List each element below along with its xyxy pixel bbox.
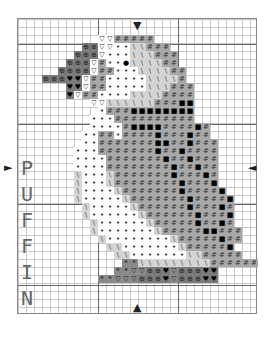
stitch-cell: # [210,251,218,259]
stitch-cell: \ [122,251,130,259]
stitch-cell: ■ [170,163,178,171]
stitch-cell: # [218,211,226,219]
stitch-cell: \ [98,235,106,243]
stitch-cell: • [98,211,106,219]
stitch-cell: # [162,203,170,211]
stitch-cell: # [170,139,178,147]
stitch-cell: # [202,235,210,243]
stitch-cell: ■ [210,227,218,235]
stitch-cell: ▽ [98,35,106,43]
stitch-cell: • [98,171,106,179]
stitch-cell: • [130,243,138,251]
title-letter-f2: F [20,236,34,256]
stitch-cell: # [130,131,138,139]
stitch-cell: \ [194,251,202,259]
stitch-cell: ■ [186,155,194,163]
stitch-cell: ♥ [202,267,210,275]
stitch-cell: * [106,275,114,283]
stitch-cell: # [146,179,154,187]
stitch-cell: # [186,147,194,155]
stitch-cell: # [162,227,170,235]
stitch-cell: \ [194,259,202,267]
stitch-cell: # [178,219,186,227]
stitch-cell: # [186,163,194,171]
stitch-cell: # [114,147,122,155]
stitch-cell: # [138,139,146,147]
stitch-cell: \ [138,211,146,219]
stitch-cell: # [122,147,130,155]
stitch-cell: • [170,251,178,259]
stitch-cell: # [242,259,250,267]
stitch-cell: # [210,195,218,203]
stitch-cell: • [98,219,106,227]
stitch-cell: # [186,83,194,91]
stitch-cell: ■ [194,163,202,171]
stitch-cell: # [202,219,210,227]
stitch-cell: ⊕ [82,67,90,75]
stitch-cell: • [98,187,106,195]
stitch-cell: • [98,203,106,211]
stitch-cell: • [122,219,130,227]
stitch-cell: # [194,187,202,195]
stitch-cell: ♥ [162,267,170,275]
stitch-cell: # [210,187,218,195]
stitch-cell: • [122,211,130,219]
stitch-cell: ■ [218,187,226,195]
stitch-cell: # [210,171,218,179]
stitch-cell: # [170,203,178,211]
stitch-cell: # [210,259,218,267]
stitch-cell: ⊕ [66,59,74,67]
stitch-cell: \ [146,51,154,59]
stitch-cell: • [90,131,98,139]
stitch-cell: • [90,203,98,211]
stitch-cell: • [122,67,130,75]
stitch-cell: # [154,99,162,107]
stitch-cell: • [162,243,170,251]
stitch-cell: • [114,235,122,243]
stitch-cell: # [138,163,146,171]
stitch-cell: \ [138,91,146,99]
stitch-cell: # [186,91,194,99]
stitch-cell: \ [90,227,98,235]
stitch-cell: ■ [210,179,218,187]
stitch-cell: • [122,51,130,59]
stitch-cell: * [122,267,130,275]
stitch-cell: # [98,75,106,83]
center-arrow-top-icon: ▼ [133,20,141,31]
stitch-cell: # [154,187,162,195]
stitch-cell: # [122,163,130,171]
stitch-cell: # [130,171,138,179]
stitch-cell: # [194,243,202,251]
stitch-cell: \ [146,67,154,75]
stitch-cell: ▽ [138,267,146,275]
stitch-cell: # [154,219,162,227]
stitch-cell: ▽ [98,43,106,51]
stitch-cell: ▽ [170,267,178,275]
stitch-cell: \ [106,99,114,107]
center-arrow-bottom-icon: ▲ [133,302,141,313]
stitch-cell: # [170,67,178,75]
stitch-cell: • [114,59,122,67]
stitch-cell: • [90,179,98,187]
stitch-cell: # [138,171,146,179]
stitch-cell: # [114,115,122,123]
stitch-cell: • [122,75,130,83]
stitch-cell: \ [162,67,170,75]
stitch-cell: • [106,51,114,59]
stitch-cell: • [114,131,122,139]
stitch-cell: ⊕ [186,275,194,283]
stitch-cell: \ [74,195,82,203]
stitch-cell: • [74,163,82,171]
stitch-cell: • [178,251,186,259]
stitch-cell: • [82,179,90,187]
stitch-cell: ■ [146,107,154,115]
stitch-cell: # [178,195,186,203]
stitch-cell: • [146,235,154,243]
stitch-cell: \ [106,171,114,179]
stitch-cell: # [114,163,122,171]
stitch-cell: • [98,163,106,171]
stitch-cell: # [186,243,194,251]
stitch-cell: # [130,155,138,163]
stitch-cell: # [138,203,146,211]
stitch-cell: ▽ [106,35,114,43]
